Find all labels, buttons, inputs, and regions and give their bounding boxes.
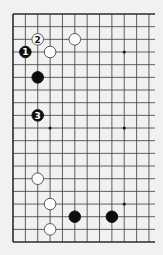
black-stone-3: 3: [32, 110, 44, 122]
black-stone-1: 1: [20, 46, 32, 58]
black-stone-disc: [32, 72, 44, 84]
white-stone-disc: [32, 173, 44, 185]
white-stone: [44, 46, 56, 58]
black-stone-disc: [106, 211, 118, 223]
black-stone: [106, 211, 118, 223]
black-stone: [32, 72, 44, 84]
black-stone: [69, 211, 81, 223]
move-number-label: 3: [35, 111, 41, 121]
white-stone: [69, 34, 81, 46]
white-stone: [44, 224, 56, 236]
move-number-label: 1: [22, 47, 28, 57]
white-stone-2: 2: [32, 34, 44, 46]
black-stone-disc: [69, 211, 81, 223]
white-stone-disc: [69, 34, 81, 46]
white-stone: [44, 198, 56, 210]
star-point: [123, 50, 126, 53]
white-stone-disc: [44, 224, 56, 236]
star-point: [123, 202, 126, 205]
move-number-label: 2: [35, 35, 41, 45]
white-stone: [32, 173, 44, 185]
star-point: [48, 126, 51, 129]
white-stone-disc: [44, 198, 56, 210]
star-point: [123, 126, 126, 129]
white-stone-disc: [44, 46, 56, 58]
go-board-diagram: 123: [0, 0, 163, 255]
